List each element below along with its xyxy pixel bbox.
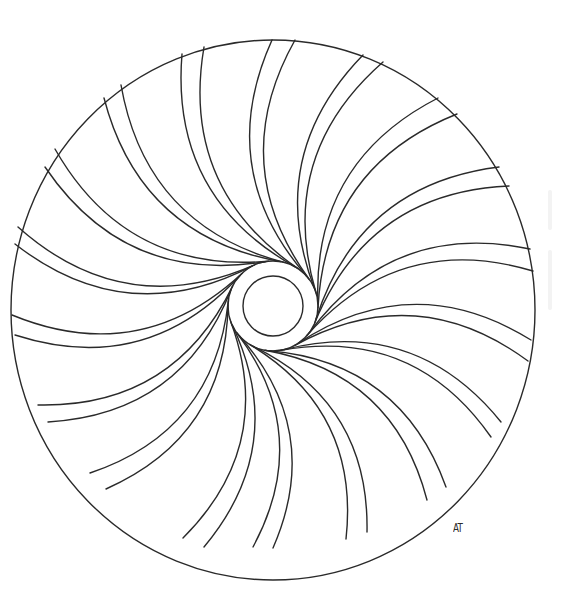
swirl-curve: [265, 350, 427, 500]
swirl-curve: [12, 273, 242, 334]
mandala-artwork: [0, 0, 575, 609]
center-ring-inner: [243, 276, 303, 336]
swirl-curve: [281, 346, 491, 437]
swirl-curve: [204, 325, 255, 547]
swirl-curve: [269, 351, 446, 487]
faint-scan-mark: [548, 190, 552, 230]
swirl-curve: [253, 346, 367, 532]
swirl-curve: [48, 290, 231, 422]
swirl-curve: [315, 186, 509, 323]
swirl-curve: [45, 167, 265, 265]
artist-signature: AT: [453, 520, 462, 535]
center-ring-outer: [228, 261, 318, 351]
swirl-curve: [284, 342, 501, 422]
swirl-curve: [239, 336, 292, 548]
swirl-curve: [183, 322, 246, 539]
faint-scan-mark: [548, 250, 552, 310]
swirl-curve: [237, 333, 280, 547]
